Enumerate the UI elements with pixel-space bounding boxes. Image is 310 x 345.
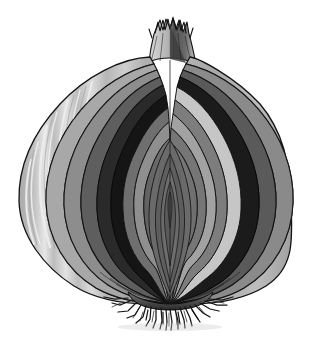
onion-illustration: Onion bulb longitudinal cross-section on… xyxy=(0,0,310,345)
onion-cross-section-figure xyxy=(0,0,310,345)
ground-shadow xyxy=(118,323,222,331)
